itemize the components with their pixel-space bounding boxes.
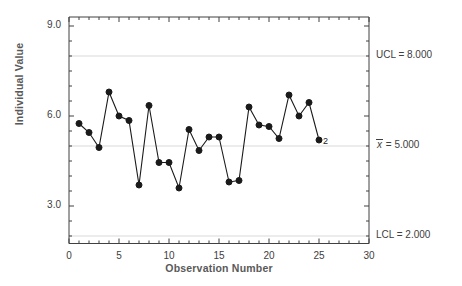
data-point xyxy=(236,178,242,184)
data-point xyxy=(86,130,92,136)
x-tick-label: 10 xyxy=(157,250,181,261)
data-point xyxy=(176,185,182,191)
data-point xyxy=(76,121,82,127)
data-point xyxy=(246,104,252,110)
y-tick-label: 3.0 xyxy=(31,199,61,210)
data-point xyxy=(266,124,272,130)
x-tick-label: 30 xyxy=(357,250,381,261)
data-point xyxy=(166,160,172,166)
data-point xyxy=(116,113,122,119)
data-point xyxy=(186,127,192,133)
x-tick-label: 0 xyxy=(57,250,81,261)
control-limit-label-LCL: LCL = 2.000 xyxy=(376,229,430,240)
data-point xyxy=(206,134,212,140)
data-point xyxy=(106,89,112,95)
y-tick-label: 9.0 xyxy=(31,19,61,30)
x-bar-symbol: x xyxy=(376,139,383,151)
data-point xyxy=(136,182,142,188)
data-point xyxy=(216,134,222,140)
x-tick-label: 15 xyxy=(207,250,231,261)
x-tick-label: 5 xyxy=(107,250,131,261)
control-chart: Individual Value Observation Number 3.06… xyxy=(0,0,462,286)
point-annotation: 2 xyxy=(323,136,328,146)
data-point xyxy=(156,160,162,166)
data-point xyxy=(316,137,322,143)
y-tick-label: 6.0 xyxy=(31,109,61,120)
control-limit-label-center: x = 5.000 xyxy=(376,139,419,151)
data-point xyxy=(296,113,302,119)
data-point xyxy=(146,103,152,109)
x-tick-label: 25 xyxy=(307,250,331,261)
data-point xyxy=(256,122,262,128)
data-line xyxy=(79,92,319,188)
x-tick-label: 20 xyxy=(257,250,281,261)
control-limit-label-UCL: UCL = 8.000 xyxy=(376,49,432,60)
data-point xyxy=(196,148,202,154)
data-point xyxy=(276,136,282,142)
data-point xyxy=(226,179,232,185)
data-point xyxy=(96,145,102,151)
data-point xyxy=(306,100,312,106)
data-point xyxy=(286,92,292,98)
data-point xyxy=(126,118,132,124)
